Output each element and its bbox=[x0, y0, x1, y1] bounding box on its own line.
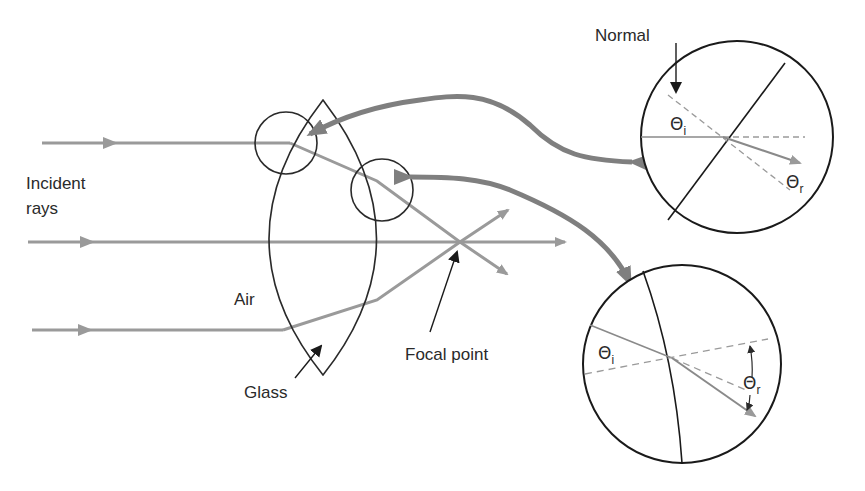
refracted-ray-bottom bbox=[283, 210, 508, 330]
callout-arrow-top bbox=[310, 96, 632, 162]
refracted-rays bbox=[283, 143, 508, 330]
normal-label: Normal bbox=[595, 26, 650, 45]
magnified-inset-exit: Θi Θr bbox=[583, 265, 781, 463]
diagram-canvas: Incident rays Air Glass Focal point Norm… bbox=[0, 0, 865, 491]
glass-label: Glass bbox=[244, 383, 287, 402]
air-label: Air bbox=[234, 290, 255, 309]
incident-rays bbox=[28, 137, 565, 336]
lens-refraction-diagram: Incident rays Air Glass Focal point Norm… bbox=[0, 0, 865, 491]
focal-point-label: Focal point bbox=[405, 345, 488, 364]
refracted-ray-top bbox=[290, 143, 507, 274]
ray-arrow-icon bbox=[80, 236, 95, 248]
focal-point-pointer-arrow-icon bbox=[430, 252, 457, 332]
glass-lens bbox=[269, 100, 377, 375]
detail-circle-exit bbox=[351, 159, 413, 221]
glass-pointer-arrow-icon bbox=[295, 346, 321, 378]
magnified-inset-entry: Normal Θi Θr bbox=[595, 26, 833, 233]
incident-rays-label-line2: rays bbox=[26, 199, 58, 218]
incident-rays-label-line1: Incident bbox=[26, 174, 86, 193]
ray-arrow-icon bbox=[103, 137, 118, 149]
ray-arrow-icon bbox=[78, 324, 93, 336]
